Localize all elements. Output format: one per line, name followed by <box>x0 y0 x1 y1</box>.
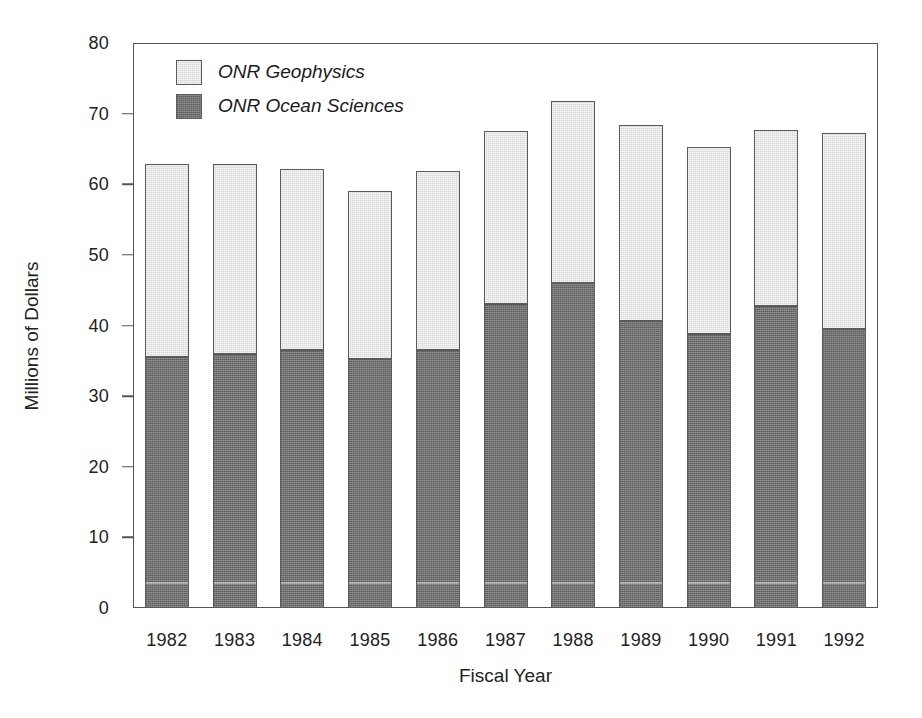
bar-segment-geophysics[interactable] <box>619 125 663 321</box>
x-tick-label: 1989 <box>620 630 661 651</box>
scan-artifact-line <box>485 582 527 584</box>
bar-segment-geophysics[interactable] <box>484 131 528 304</box>
bar-group[interactable] <box>145 164 189 608</box>
x-tick-label: 1984 <box>282 630 323 651</box>
bar-group[interactable] <box>280 169 324 608</box>
x-tick-label: 1987 <box>485 630 526 651</box>
x-axis: Fiscal Year 1982198319841985198619871988… <box>133 608 878 718</box>
legend-item[interactable]: ONR Ocean Sciences <box>176 89 436 123</box>
scan-artifact-line <box>620 582 662 584</box>
y-tick-label: 30 <box>88 386 109 407</box>
dark-gray-swatch <box>176 94 202 119</box>
bar-segment-geophysics[interactable] <box>213 164 257 354</box>
y-tick-label: 20 <box>88 456 109 477</box>
bar-segment-ocean-sciences[interactable] <box>145 357 189 608</box>
bar-segment-ocean-sciences[interactable] <box>213 354 257 608</box>
x-axis-title: Fiscal Year <box>133 665 878 687</box>
bar-group[interactable] <box>687 147 731 608</box>
y-axis-title: Millions of Dollars <box>21 136 43 536</box>
chart-figure: 01020304050607080 Millions of Dollars ON… <box>0 0 922 718</box>
y-tick-label: 80 <box>88 33 109 54</box>
bar-segment-geophysics[interactable] <box>280 169 324 350</box>
bar-group[interactable] <box>619 125 663 608</box>
y-tick-label: 0 <box>99 598 109 619</box>
bar-segment-ocean-sciences[interactable] <box>822 329 866 608</box>
y-axis: 01020304050607080 <box>0 0 133 651</box>
scan-artifact-line <box>349 582 391 584</box>
scan-artifact-line <box>214 582 256 584</box>
bars-layer <box>133 43 878 608</box>
x-tick-label: 1982 <box>146 630 187 651</box>
scan-artifact-line <box>755 582 797 584</box>
bar-segment-geophysics[interactable] <box>348 191 392 359</box>
x-tick-label: 1988 <box>553 630 594 651</box>
y-tick-label: 60 <box>88 174 109 195</box>
bar-segment-ocean-sciences[interactable] <box>280 350 324 608</box>
x-tick-label: 1983 <box>214 630 255 651</box>
bar-segment-geophysics[interactable] <box>551 101 595 283</box>
bar-segment-geophysics[interactable] <box>687 147 731 334</box>
legend-item-label: ONR Ocean Sciences <box>218 95 404 117</box>
y-tick-label: 40 <box>88 315 109 336</box>
scan-artifact-line <box>688 582 730 584</box>
scan-artifact-line <box>146 582 188 584</box>
light-gray-swatch <box>176 60 202 85</box>
bar-group[interactable] <box>822 133 866 608</box>
y-tick-label: 70 <box>88 103 109 124</box>
bar-group[interactable] <box>754 130 798 608</box>
chart-legend: ONR GeophysicsONR Ocean Sciences <box>176 55 436 123</box>
bar-segment-ocean-sciences[interactable] <box>754 306 798 608</box>
legend-item[interactable]: ONR Geophysics <box>176 55 436 89</box>
bar-group[interactable] <box>416 171 460 608</box>
scan-artifact-line <box>281 582 323 584</box>
bar-segment-geophysics[interactable] <box>754 130 798 306</box>
scan-artifact-line <box>417 582 459 584</box>
y-tick-label: 10 <box>88 527 109 548</box>
bar-segment-ocean-sciences[interactable] <box>348 359 392 608</box>
bar-segment-geophysics[interactable] <box>822 133 866 329</box>
bar-segment-ocean-sciences[interactable] <box>484 304 528 608</box>
bar-group[interactable] <box>484 131 528 608</box>
bar-segment-ocean-sciences[interactable] <box>416 350 460 608</box>
bar-segment-ocean-sciences[interactable] <box>687 334 731 608</box>
bar-group[interactable] <box>551 101 595 608</box>
y-tick-label: 50 <box>88 244 109 265</box>
x-tick-label: 1992 <box>824 630 865 651</box>
bar-group[interactable] <box>213 164 257 608</box>
x-tick-label: 1985 <box>349 630 390 651</box>
bar-group[interactable] <box>348 191 392 608</box>
bar-segment-geophysics[interactable] <box>145 164 189 357</box>
bar-segment-ocean-sciences[interactable] <box>551 283 595 608</box>
x-tick-label: 1986 <box>417 630 458 651</box>
x-tick-label: 1990 <box>688 630 729 651</box>
bar-segment-ocean-sciences[interactable] <box>619 321 663 608</box>
legend-item-label: ONR Geophysics <box>218 61 365 83</box>
x-tick-label: 1991 <box>756 630 797 651</box>
bar-segment-geophysics[interactable] <box>416 171 460 350</box>
scan-artifact-line <box>823 582 865 584</box>
scan-artifact-line <box>552 582 594 584</box>
